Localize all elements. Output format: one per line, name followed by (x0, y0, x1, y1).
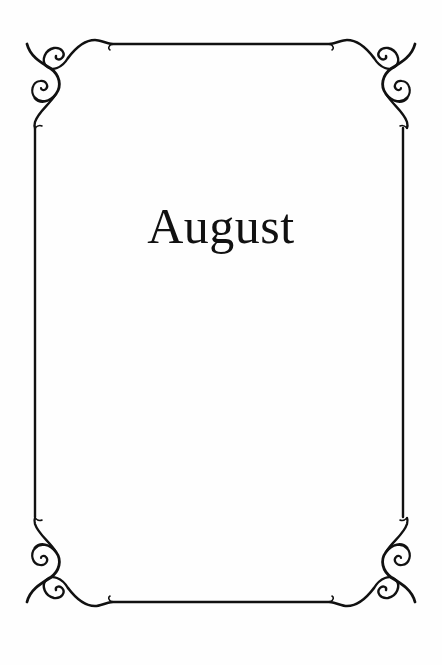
page-title: August (0, 196, 442, 256)
scroll-ornament-bottom-right-icon (330, 518, 415, 606)
scroll-ornament-top-left-icon (27, 40, 112, 128)
calendar-divider-page: August (0, 0, 442, 665)
ornamental-frame (0, 0, 442, 665)
scroll-ornament-top-right-icon (330, 40, 415, 128)
scroll-ornament-bottom-left-icon (27, 518, 112, 606)
